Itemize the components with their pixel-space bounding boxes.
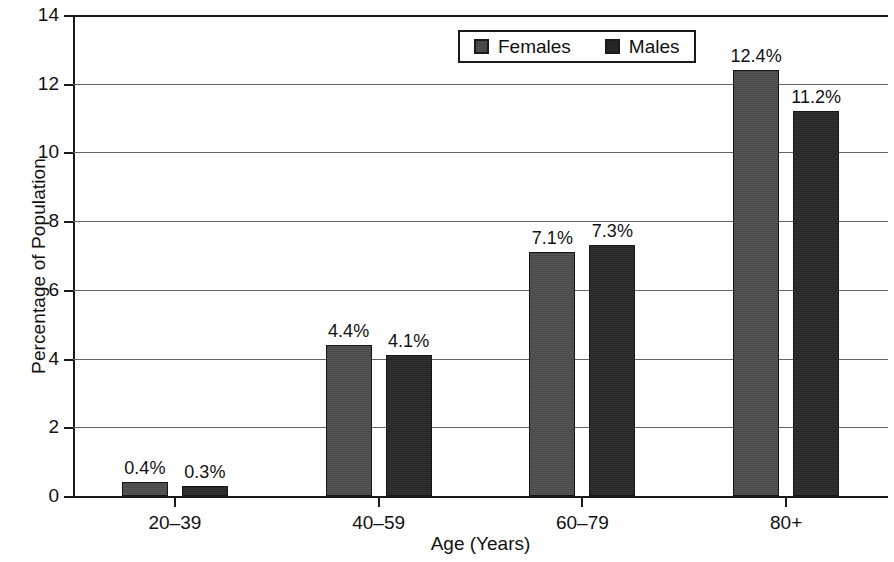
gridline — [73, 15, 888, 17]
bar-value-label: 0.3% — [184, 462, 225, 483]
y-tick-label: 12 — [38, 73, 59, 95]
x-axis-title: Age (Years) — [73, 533, 888, 555]
y-tick-mark — [64, 152, 73, 154]
bar-males-0[interactable]: 0.3% — [182, 486, 228, 496]
y-tick-label: 6 — [48, 279, 59, 301]
legend-entry-females[interactable]: Females — [474, 36, 571, 58]
y-tick-mark — [64, 496, 73, 498]
legend-swatch-icon — [474, 39, 489, 54]
legend-label: Females — [498, 36, 571, 58]
bar-value-label: 4.1% — [388, 331, 429, 352]
bar-value-label: 7.1% — [532, 228, 573, 249]
y-tick-mark — [64, 84, 73, 86]
bar-males-2[interactable]: 7.3% — [589, 245, 635, 496]
legend-swatch-icon — [605, 39, 620, 54]
y-tick-label: 4 — [48, 348, 59, 370]
y-tick-label: 2 — [48, 416, 59, 438]
x-tick-label: 20–39 — [148, 512, 201, 534]
x-tick-mark — [174, 498, 176, 507]
x-tick-label: 80+ — [770, 512, 802, 534]
legend: FemalesMales — [458, 30, 696, 63]
bar-chart-figure: Percentage of Population 02468101214 0.4… — [0, 0, 894, 562]
bar-value-label: 7.3% — [592, 221, 633, 242]
bar-value-label: 12.4% — [731, 46, 782, 67]
bar-males-3[interactable]: 11.2% — [793, 111, 839, 496]
bar-females-1[interactable]: 4.4% — [326, 345, 372, 496]
x-tick-mark — [378, 498, 380, 507]
x-tick-label: 40–59 — [352, 512, 405, 534]
bar-females-3[interactable]: 12.4% — [733, 70, 779, 496]
y-axis-line — [73, 15, 75, 498]
bar-value-label: 4.4% — [328, 321, 369, 342]
y-tick-mark — [64, 15, 73, 17]
y-tick-label: 8 — [48, 210, 59, 232]
y-tick-label: 0 — [48, 485, 59, 507]
bar-males-1[interactable]: 4.1% — [386, 355, 432, 496]
bar-females-0[interactable]: 0.4% — [122, 482, 168, 496]
y-tick-mark — [64, 359, 73, 361]
bar-value-label: 0.4% — [124, 458, 165, 479]
legend-label: Males — [629, 36, 680, 58]
y-tick-mark — [64, 290, 73, 292]
legend-entry-males[interactable]: Males — [605, 36, 680, 58]
bar-value-label: 11.2% — [791, 87, 841, 108]
x-tick-mark — [581, 498, 583, 507]
x-tick-mark — [785, 498, 787, 507]
y-axis-title: Percentage of Population — [28, 136, 50, 396]
y-tick-label: 14 — [38, 4, 59, 26]
x-tick-label: 60–79 — [556, 512, 609, 534]
y-tick-label: 10 — [38, 141, 59, 163]
bar-females-2[interactable]: 7.1% — [529, 252, 575, 496]
y-tick-mark — [64, 427, 73, 429]
plot-area: 02468101214 0.4%0.3%4.4%4.1%7.1%7.3%12.4… — [73, 15, 888, 497]
x-axis-line — [73, 496, 888, 498]
y-tick-mark — [64, 221, 73, 223]
